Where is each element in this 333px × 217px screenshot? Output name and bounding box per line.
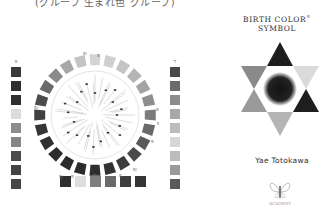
star-lower-left-triangle xyxy=(241,89,267,112)
radial-marker xyxy=(119,134,121,136)
left-swatch-4 xyxy=(11,123,21,133)
radial-marker xyxy=(105,89,107,91)
left-swatch-6 xyxy=(11,151,21,161)
right-swatch-7 xyxy=(170,165,180,175)
star-top-triangle xyxy=(267,42,293,66)
wheel-label: B/ xyxy=(93,173,98,178)
wheel-segment xyxy=(60,156,74,171)
radial-line xyxy=(93,129,94,155)
radial-line xyxy=(97,123,103,148)
star-bottom-triangle xyxy=(267,112,293,136)
radial-marker xyxy=(116,114,118,116)
registered-mark: ® xyxy=(306,14,311,19)
left-swatch-0 xyxy=(11,67,21,77)
svg-text:ACADEMY: ACADEMY xyxy=(268,201,291,206)
radial-marker xyxy=(119,125,121,127)
radial-marker xyxy=(80,91,82,93)
color-wheel: B/BBB/B/B/BB/BB/B xyxy=(31,51,159,179)
radial-marker xyxy=(100,141,102,143)
radial-marker xyxy=(76,134,78,136)
right-swatch-6 xyxy=(170,151,180,161)
radial-line xyxy=(61,119,84,128)
radial-marker xyxy=(92,146,94,148)
wheel-segment xyxy=(136,136,151,150)
wheel-label: B xyxy=(71,174,74,179)
wheel-label: B xyxy=(119,173,122,178)
wheel-segment xyxy=(145,109,156,120)
left-swatch-3 xyxy=(11,109,21,119)
academy-logo: ACADEMY xyxy=(262,178,298,208)
radial-line xyxy=(110,123,125,131)
radial-marker xyxy=(67,112,69,114)
wheel-label: B/ xyxy=(157,121,159,126)
left-column-label: B xyxy=(11,59,21,64)
wheel-segment xyxy=(136,80,151,94)
radial-line xyxy=(68,85,87,107)
radial-marker xyxy=(114,89,116,91)
left-swatch-8 xyxy=(11,179,21,189)
left-swatch-column: B xyxy=(11,59,21,189)
radial-marker xyxy=(73,121,75,123)
radial-line xyxy=(108,90,126,105)
wheel-segment xyxy=(40,80,55,94)
wheel-segment xyxy=(74,55,87,68)
radial-line xyxy=(69,96,88,110)
radial-line xyxy=(102,124,120,146)
author-name: Yae Totokawa xyxy=(232,156,332,165)
right-swatch-0 xyxy=(170,67,180,77)
title: BIRTH COLOR® SYMBOL xyxy=(232,12,322,33)
wheel-segment xyxy=(142,94,155,107)
wheel-label: B xyxy=(156,107,159,112)
right-swatch-2 xyxy=(170,95,180,105)
radial-line xyxy=(85,131,90,151)
radial-line xyxy=(112,110,127,112)
radial-line xyxy=(98,78,102,99)
radial-line xyxy=(74,125,86,138)
radial-line xyxy=(63,119,82,125)
star-upper-right-triangle xyxy=(293,66,319,89)
title-line2: SYMBOL xyxy=(258,24,296,33)
right-swatch-5 xyxy=(170,137,180,147)
radial-line xyxy=(76,82,88,103)
star-upper-left-triangle xyxy=(241,66,267,89)
radial-marker xyxy=(67,132,69,134)
star-lower-right-triangle xyxy=(293,89,319,112)
wheel-segment xyxy=(116,60,130,75)
wheel-segment xyxy=(40,136,55,150)
radial-line xyxy=(55,111,87,114)
radial-line xyxy=(63,117,78,119)
radial-line xyxy=(86,82,93,107)
left-swatch-5 xyxy=(11,137,21,147)
radial-marker xyxy=(120,108,122,110)
wheel-segment xyxy=(74,162,87,175)
radial-line xyxy=(108,121,128,130)
left-swatch-7 xyxy=(11,165,21,175)
radial-marker xyxy=(107,132,109,134)
wheel-label: B xyxy=(151,139,154,144)
wheel-segment xyxy=(142,124,155,137)
radial-line xyxy=(106,117,132,123)
wheel-segment xyxy=(34,109,45,120)
wheel-label: B/ xyxy=(83,51,88,56)
right-swatch-4 xyxy=(170,123,180,133)
wheel-segment xyxy=(48,147,63,162)
right-swatch-3 xyxy=(170,109,180,119)
wheel-label: B/ xyxy=(59,174,64,179)
wheel-segment xyxy=(60,60,74,75)
left-swatch-2 xyxy=(11,95,21,105)
radial-marker xyxy=(87,135,89,137)
radial-marker xyxy=(64,103,66,105)
title-line1: BIRTH COLOR xyxy=(243,15,306,24)
right-column-label: T xyxy=(170,59,180,64)
left-swatch-1 xyxy=(11,81,21,91)
right-swatch-8 xyxy=(170,179,180,189)
radial-marker xyxy=(76,101,78,103)
star-of-david-symbol xyxy=(227,40,333,152)
radial-marker xyxy=(112,101,114,103)
top-caption: (グループ 生まれ色 グループ) xyxy=(30,0,180,9)
wheel-segment xyxy=(127,147,142,162)
right-swatch-1 xyxy=(170,81,180,91)
wheel-label: B xyxy=(97,53,100,58)
wheel-segment xyxy=(116,156,130,171)
radial-line xyxy=(67,127,83,143)
